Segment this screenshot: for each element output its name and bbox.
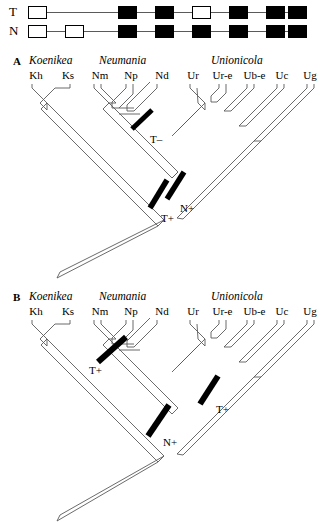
panel-a-mark-t-plus: T+ bbox=[161, 212, 174, 224]
panel-b-taxon-ub-e: Ub-e bbox=[240, 305, 269, 317]
matrix-row-label-t: T bbox=[9, 3, 17, 21]
terminal-ur-e-b bbox=[211, 320, 226, 338]
panel-b-letter: B bbox=[13, 291, 20, 303]
branch-unionicola-stem-a bbox=[183, 141, 261, 219]
panel-a-taxon-ur: Ur bbox=[183, 69, 203, 81]
panel-b: B Koenikea Neumania Unionicola Kh Ks Nm … bbox=[0, 288, 328, 523]
character-matrix: T N bbox=[0, 0, 328, 46]
matrix-connector bbox=[137, 31, 155, 32]
terminal-ug bbox=[254, 84, 314, 141]
panel-b-genus-unionicola: Unionicola bbox=[211, 290, 263, 302]
matrix-connector bbox=[137, 12, 155, 13]
panel-a-taxon-ug: Ug bbox=[300, 69, 320, 81]
uni-join-b bbox=[177, 454, 183, 455]
terminal-uc bbox=[239, 84, 284, 126]
terminal-ug-b bbox=[254, 320, 314, 377]
matrix-connector bbox=[47, 31, 65, 32]
panel-a-taxon-uc: Uc bbox=[272, 69, 292, 81]
terminal-ub-e-b bbox=[224, 320, 254, 347]
panel-b-bar-n-plus bbox=[143, 399, 175, 441]
figure-root: T N bbox=[0, 0, 328, 523]
panel-a-taxon-ub-e: Ub-e bbox=[240, 69, 269, 81]
matrix-row-t: T bbox=[0, 4, 328, 22]
panel-b-taxon-nd: Nd bbox=[151, 305, 173, 317]
panel-a: A Koenikea Neumania Unionicola Kh Ks Nm … bbox=[0, 52, 328, 282]
panel-a-mark-t-minus: T– bbox=[150, 133, 162, 145]
panel-b-taxon-ur-e: Ur-e bbox=[208, 305, 237, 317]
terminal-nm bbox=[94, 84, 116, 103]
clade-koenikea-outline bbox=[32, 84, 70, 110]
matrix-connector bbox=[248, 31, 266, 32]
uni-join bbox=[177, 218, 183, 219]
matrix-cell-n-8 bbox=[288, 25, 307, 38]
panel-a-genus-unionicola: Unionicola bbox=[211, 54, 263, 66]
panel-a-bar-t-minus bbox=[128, 107, 158, 135]
panel-b-taxon-np: Np bbox=[120, 305, 142, 317]
panel-b-mark-t-plus-unionicola: T+ bbox=[216, 403, 229, 415]
panel-b-mark-n-plus: N+ bbox=[163, 436, 177, 448]
clade-koenikea-outline-b bbox=[32, 320, 70, 346]
backbone-unionicola-b bbox=[178, 109, 199, 130]
root-stem-a bbox=[60, 220, 164, 272]
matrix-connector bbox=[174, 12, 192, 13]
branch-koenikea-stem-cap bbox=[41, 103, 47, 109]
matrix-cell-n-1 bbox=[28, 25, 47, 38]
panel-b-genus-neumania: Neumania bbox=[99, 290, 146, 302]
matrix-cell-t-7 bbox=[266, 6, 285, 19]
panel-a-genus-neumania: Neumania bbox=[99, 54, 146, 66]
matrix-cell-t-4 bbox=[155, 6, 174, 19]
matrix-cell-n-2 bbox=[65, 25, 84, 38]
matrix-connector bbox=[174, 31, 192, 32]
matrix-row-label-n: N bbox=[9, 22, 18, 40]
terminal-ur-e bbox=[211, 84, 226, 102]
panel-a-mark-n-plus: N+ bbox=[180, 202, 194, 214]
matrix-connector bbox=[84, 31, 118, 32]
root-stem-b bbox=[57, 226, 158, 278]
panel-a-taxon-nd: Nd bbox=[151, 69, 173, 81]
panel-b-taxon-ks: Ks bbox=[58, 305, 78, 317]
panel-a-taxon-np: Np bbox=[120, 69, 142, 81]
matrix-cell-t-6 bbox=[229, 6, 248, 19]
matrix-cell-n-5 bbox=[192, 25, 211, 38]
panel-a-taxon-ks: Ks bbox=[58, 69, 78, 81]
root-stem-b-b bbox=[57, 462, 158, 521]
panel-b-taxon-kh: Kh bbox=[26, 305, 46, 317]
matrix-cell-n-6 bbox=[229, 25, 248, 38]
terminal-uc-b bbox=[239, 320, 284, 362]
matrix-cell-t-1 bbox=[28, 6, 47, 19]
panel-b-genus-koenikea: Koenikea bbox=[29, 290, 72, 302]
terminal-ub-e bbox=[224, 84, 254, 111]
panel-b-mark-t-plus-neumania: T+ bbox=[89, 364, 102, 376]
koenikea-cap-b bbox=[41, 339, 47, 345]
panel-b-taxon-ur: Ur bbox=[183, 305, 203, 317]
matrix-connector bbox=[248, 12, 266, 13]
panel-a-genus-koenikea: Koenikea bbox=[29, 54, 72, 66]
panel-a-taxon-nm: Nm bbox=[89, 69, 111, 81]
root-stem-a-b bbox=[60, 456, 164, 515]
terminal-ur-b bbox=[190, 320, 205, 346]
panel-b-bar-t-plus-neumania bbox=[93, 332, 133, 368]
panel-a-taxon-kh: Kh bbox=[26, 69, 46, 81]
panel-b-taxon-ug: Ug bbox=[300, 305, 320, 317]
matrix-cell-t-3 bbox=[118, 6, 137, 19]
matrix-row-n: N bbox=[0, 23, 328, 41]
matrix-cell-t-8 bbox=[288, 6, 307, 19]
terminal-np bbox=[112, 84, 133, 108]
matrix-cell-n-4 bbox=[155, 25, 174, 38]
branch-neumania-cap bbox=[103, 103, 109, 109]
panel-b-taxon-uc: Uc bbox=[272, 305, 292, 317]
backbone-unionicola-b-b bbox=[178, 345, 199, 366]
panel-a-letter: A bbox=[13, 55, 21, 67]
matrix-connector bbox=[211, 12, 229, 13]
panel-a-bar-t-plus bbox=[146, 175, 172, 213]
matrix-cell-n-3 bbox=[118, 25, 137, 38]
panel-b-taxon-nm: Nm bbox=[89, 305, 111, 317]
matrix-cell-n-7 bbox=[266, 25, 285, 38]
matrix-connector bbox=[47, 12, 118, 13]
matrix-cell-t-5 bbox=[192, 6, 211, 19]
matrix-connector bbox=[211, 31, 229, 32]
panel-a-taxon-ur-e: Ur-e bbox=[208, 69, 237, 81]
terminal-ur bbox=[190, 84, 205, 110]
